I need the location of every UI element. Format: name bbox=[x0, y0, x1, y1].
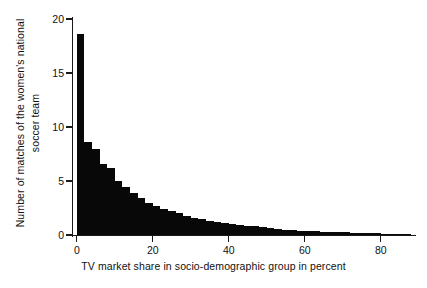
histogram-bar bbox=[297, 231, 305, 235]
histogram-bar bbox=[328, 232, 336, 235]
histogram-bar bbox=[388, 234, 396, 235]
y-axis-title: Number of matches of the women's nationa… bbox=[13, 18, 43, 227]
histogram-bar bbox=[358, 233, 366, 235]
y-tick-0 bbox=[66, 234, 72, 235]
histogram-bar bbox=[274, 229, 282, 235]
histogram-bar bbox=[183, 216, 191, 235]
histogram-bar bbox=[366, 233, 374, 235]
histogram-bar bbox=[191, 218, 199, 235]
x-tick-60 bbox=[304, 236, 305, 242]
histogram-bar bbox=[206, 221, 214, 235]
histogram-bar bbox=[381, 234, 389, 236]
histogram-bar bbox=[176, 213, 184, 235]
histogram-bar bbox=[229, 224, 237, 235]
histogram-bar bbox=[84, 142, 92, 235]
histogram-bar bbox=[282, 230, 290, 235]
histogram-bar bbox=[122, 187, 130, 235]
y-tick-label-0: 0 bbox=[44, 229, 64, 241]
histogram-bar bbox=[221, 223, 229, 235]
y-tick-label-10: 10 bbox=[44, 121, 64, 133]
histogram-bar bbox=[404, 234, 412, 235]
histogram-bar bbox=[214, 222, 222, 235]
histogram-bar bbox=[168, 211, 176, 235]
x-tick-label-60: 60 bbox=[285, 244, 325, 256]
x-axis-title: TV market share in socio-demographic gro… bbox=[0, 260, 427, 272]
histogram-bar bbox=[138, 198, 146, 235]
y-tick-15 bbox=[66, 72, 72, 73]
histogram-bar bbox=[252, 226, 260, 235]
chart-figure: Number of matches of the women's nationa… bbox=[0, 0, 427, 288]
histogram-bar bbox=[100, 164, 108, 235]
y-tick-label-20: 20 bbox=[44, 13, 64, 25]
histogram-bar bbox=[92, 149, 100, 235]
histogram-bar bbox=[244, 226, 252, 235]
x-tick-label-0: 0 bbox=[57, 244, 97, 256]
y-axis-title-line-1: Number of matches of the women's nationa… bbox=[13, 18, 28, 227]
x-tick-label-20: 20 bbox=[133, 244, 173, 256]
y-axis-title-line-2: soccer team bbox=[28, 18, 43, 227]
histogram-bar bbox=[236, 225, 244, 235]
y-tick-label-5: 5 bbox=[44, 175, 64, 187]
histogram-bar bbox=[153, 206, 161, 235]
x-tick-40 bbox=[228, 236, 229, 242]
x-tick-label-40: 40 bbox=[209, 244, 249, 256]
histogram-bar bbox=[335, 232, 343, 235]
histogram-bar bbox=[305, 231, 313, 235]
y-tick-label-15: 15 bbox=[44, 67, 64, 79]
histogram-bar bbox=[77, 34, 85, 235]
histogram-bar bbox=[320, 232, 328, 235]
histogram-bar bbox=[373, 233, 381, 235]
histogram-bar bbox=[343, 232, 351, 235]
histogram-bar bbox=[259, 227, 267, 235]
histogram-bar bbox=[115, 181, 123, 235]
histogram-bar bbox=[130, 193, 138, 235]
histogram-bar bbox=[290, 230, 298, 235]
x-tick-20 bbox=[152, 236, 153, 242]
y-tick-20 bbox=[66, 18, 72, 19]
histogram-bar bbox=[267, 228, 275, 235]
x-tick-80 bbox=[380, 236, 381, 242]
histogram-bar bbox=[160, 209, 168, 235]
histogram-bar bbox=[312, 231, 320, 235]
histogram-bar bbox=[198, 219, 206, 235]
y-tick-5 bbox=[66, 180, 72, 181]
y-tick-10 bbox=[66, 126, 72, 127]
x-tick-label-80: 80 bbox=[361, 244, 401, 256]
histogram-bar bbox=[107, 168, 115, 235]
x-tick-0 bbox=[76, 236, 77, 242]
histogram-bar bbox=[350, 233, 358, 235]
histogram-bars bbox=[73, 19, 415, 235]
histogram-bar bbox=[396, 234, 404, 235]
histogram-bar bbox=[145, 203, 153, 235]
